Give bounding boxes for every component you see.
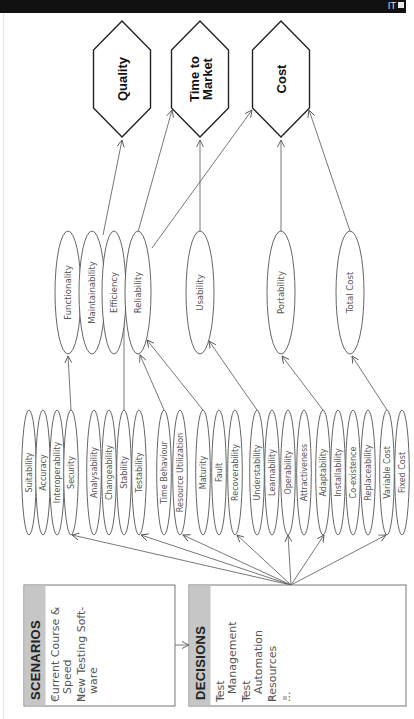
subcharacteristics-layer: SuitabilityAccuracyInteroperabilitySecur… [22, 410, 410, 535]
scenarios-item-text: Speed [61, 660, 74, 694]
subcharacteristic-label: Understability [253, 444, 262, 500]
decisions-item-text: ... [280, 692, 293, 703]
subcharacteristic-label: Time Behaviour [160, 440, 169, 504]
subcharacteristic-analysability[interactable]: Analysability [87, 410, 102, 535]
subcharacteristic-label: Suitability [25, 452, 34, 492]
subcharacteristic-replaceability[interactable]: Replaceability [361, 410, 376, 535]
subcharacteristic-label: Attractiveness [300, 444, 309, 502]
scenarios-box[interactable]: SCENARIOS Current Course &SpeedNew Testi… [24, 585, 175, 706]
subcharacteristic-label: Variable Cost [383, 446, 392, 499]
characteristic-efficiency[interactable]: Efficiency [102, 231, 126, 354]
characteristic-label: Maintainability [87, 261, 97, 324]
decisions-item-text: Management [226, 621, 239, 694]
connectors-decisions-fan [72, 535, 386, 585]
subcharacteristic-fixed-cost[interactable]: Fixed Cost [395, 410, 410, 535]
characteristic-label: Efficiency [109, 272, 119, 313]
characteristic-label: Total Cost [345, 271, 355, 314]
characteristic-total-cost[interactable]: Total Cost [336, 231, 364, 354]
subcharacteristic-stability[interactable]: Stability [117, 410, 132, 535]
decisions-box[interactable]: DECISIONS TestManagementTestAutomationRe… [189, 585, 406, 706]
connectors-upper [103, 110, 350, 248]
subcharacteristic-label: Testability [135, 452, 144, 494]
scenarios-item-text: ware [87, 667, 100, 694]
subcharacteristic-label: Learnability [268, 449, 277, 496]
subcharacteristic-label: Analysability [90, 447, 99, 498]
subcharacteristic-label: Co-existence [349, 446, 358, 498]
subcharacteristic-co-existence[interactable]: Co-existence [346, 410, 361, 535]
characteristic-functionality[interactable]: Functionality [55, 231, 81, 354]
subcharacteristic-installability[interactable]: Installability [331, 410, 346, 535]
goal-cost[interactable]: Cost [253, 21, 310, 137]
goal-quality[interactable]: Quality [94, 21, 151, 137]
decisions-item: ... [280, 692, 293, 703]
scenarios-title: SCENARIOS [28, 620, 43, 700]
characteristic-reliability[interactable]: Reliability [125, 231, 151, 354]
subcharacteristic-label: Replaceability [364, 444, 373, 500]
diagram-canvas: QualityTime toMarketCost FunctionalityMa… [0, 0, 414, 719]
decisions-title: DECISIONS [193, 626, 208, 700]
characteristic-label: Portability [276, 271, 286, 314]
subcharacteristic-label: Fault [215, 463, 224, 482]
subcharacteristic-label: Stability [120, 456, 129, 489]
subcharacteristic-suitability[interactable]: Suitability [22, 410, 37, 535]
subcharacteristic-label: Adaptability [319, 448, 328, 496]
decisions-item-text: Automation [252, 630, 265, 694]
subcharacteristic-label: Fixed Cost [398, 452, 407, 493]
subcharacteristic-testability[interactable]: Testability [132, 410, 147, 535]
characteristic-usability[interactable]: Usability [186, 231, 214, 354]
goals-layer: QualityTime toMarketCost [94, 21, 310, 137]
characteristic-label: Usability [195, 274, 205, 311]
subcharacteristic-security[interactable]: Security [64, 410, 79, 535]
characteristic-label: Reliability [133, 272, 143, 314]
subcharacteristic-changeability[interactable]: Changeability [102, 410, 117, 535]
subcharacteristic-time-behaviour[interactable]: Time Behaviour [157, 410, 172, 535]
subcharacteristic-accuracy[interactable]: Accuracy [36, 410, 51, 535]
subcharacteristic-label: Installability [334, 448, 343, 497]
subcharacteristic-interoperability[interactable]: Interoperability [50, 410, 65, 535]
decisions-item-text: Resources [266, 646, 279, 702]
characteristic-portability[interactable]: Portability [267, 231, 295, 354]
goal-time-to-market[interactable]: Time toMarket [172, 21, 229, 137]
goal-label: Quality [115, 56, 130, 101]
subcharacteristic-operability[interactable]: Operability [281, 410, 296, 535]
goal-label: Cost [274, 64, 289, 94]
subcharacteristic-recoverability[interactable]: Recoverability [228, 410, 243, 535]
subcharacteristic-learnability[interactable]: Learnability [265, 410, 280, 535]
decisions-item: Resources [266, 646, 279, 702]
subcharacteristic-fault[interactable]: Fault [212, 410, 227, 535]
subcharacteristic-label: Resource Utilization [176, 433, 185, 512]
subcharacteristic-maturity[interactable]: Maturity [196, 410, 211, 535]
characteristic-label: Functionality [63, 265, 73, 319]
subcharacteristic-label: Interoperability [53, 442, 62, 504]
subcharacteristic-adaptability[interactable]: Adaptability [316, 410, 331, 535]
subcharacteristic-label: Security [67, 456, 76, 489]
subcharacteristic-resource-utilization[interactable]: Resource Utilization [173, 410, 188, 535]
characteristic-maintainability[interactable]: Maintainability [79, 231, 105, 354]
subcharacteristic-variable-cost[interactable]: Variable Cost [380, 410, 395, 535]
subcharacteristic-label: Accuracy [39, 454, 48, 491]
subcharacteristic-label: Changeability [105, 445, 114, 500]
subcharacteristic-label: Recoverability [231, 444, 240, 501]
subcharacteristic-understability[interactable]: Understability [250, 410, 265, 535]
goal-label: Market [200, 57, 215, 100]
subcharacteristic-label: Maturity [199, 456, 208, 490]
characteristics-layer: FunctionalityMaintainabilityEfficiencyRe… [55, 231, 364, 354]
subcharacteristic-label: Operability [284, 450, 293, 494]
subcharacteristic-attractiveness[interactable]: Attractiveness [297, 410, 312, 535]
